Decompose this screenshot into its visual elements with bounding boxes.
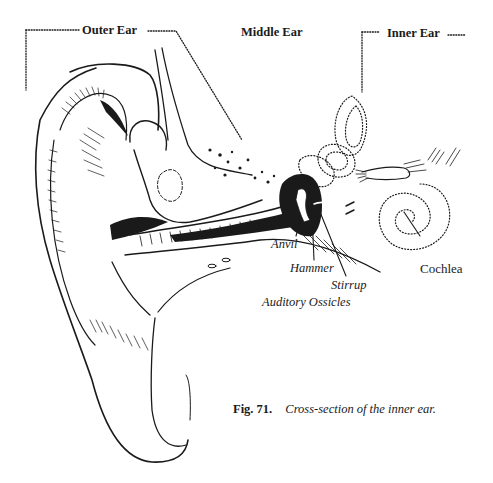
canal-ovals bbox=[208, 258, 230, 268]
figure-number: Fig. 71. bbox=[233, 402, 272, 416]
concha-shadow bbox=[110, 217, 168, 240]
inner-ear-bracket bbox=[362, 32, 466, 92]
stirrup-label: Stirrup bbox=[331, 279, 366, 292]
stirrup-footplate bbox=[346, 202, 354, 214]
anvil-label: Anvil bbox=[271, 238, 297, 251]
concha-inner bbox=[158, 170, 183, 202]
semicircular-canals bbox=[299, 96, 367, 187]
ear-canal-lower bbox=[125, 239, 380, 272]
outer-ear-bracket bbox=[26, 30, 242, 140]
figure-caption-text: Cross-section of the inner ear. bbox=[285, 402, 436, 416]
middle-ear-label: Middle Ear bbox=[241, 26, 302, 39]
canal-lower-outline bbox=[158, 268, 230, 312]
antitragus bbox=[112, 262, 186, 446]
tragus bbox=[130, 121, 262, 223]
vestibular-nerve bbox=[362, 167, 410, 179]
auditory-ossicles-label: Auditory Ossicles bbox=[262, 296, 351, 309]
inner-ear-label: Inner Ear bbox=[387, 27, 440, 40]
antihelix-shadow bbox=[100, 100, 128, 136]
helix-inner bbox=[51, 94, 127, 345]
antitragus-hatching bbox=[90, 320, 148, 350]
outer-ear-label: Outer Ear bbox=[82, 24, 137, 37]
cochlea-spiral bbox=[379, 184, 449, 250]
lobule-detail bbox=[186, 375, 190, 420]
figure-caption: Fig. 71. Cross-section of the inner ear. bbox=[233, 402, 436, 417]
helix-shading bbox=[48, 87, 104, 252]
temporal-bone-line bbox=[155, 48, 252, 175]
hammer-label: Hammer bbox=[290, 262, 334, 275]
cochlea-label: Cochlea bbox=[420, 262, 463, 275]
bone-speckles bbox=[208, 148, 275, 183]
